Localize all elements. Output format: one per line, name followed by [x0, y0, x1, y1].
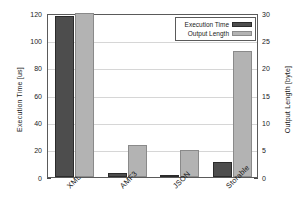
chart-legend: Execution TimeOutput Length: [175, 17, 256, 41]
y-axis-right-tick-label: 10: [262, 120, 288, 127]
legend-item: Output Length: [180, 29, 252, 38]
y-axis-right-tick-label: 30: [262, 11, 288, 18]
y-axis-right-tick-label: 20: [262, 65, 288, 72]
bar-chart-figure: Execution Time [us] Output Length [byte]…: [0, 0, 306, 219]
legend-label: Output Length: [188, 30, 229, 37]
bar-output-length: [233, 51, 252, 177]
y-axis-left-tick-label: 120: [16, 11, 42, 18]
legend-swatch-output-length: [232, 31, 252, 36]
y-axis-right-tick-label: 25: [262, 38, 288, 45]
y-axis-right-tick-label: 0: [262, 175, 288, 182]
bar-execution-time: [55, 16, 74, 177]
y-axis-left-tick-label: 60: [16, 93, 42, 100]
y-axis-left-tick-label: 40: [16, 120, 42, 127]
y-axis-left-tick-label: 0: [16, 175, 42, 182]
legend-label: Execution Time: [185, 21, 229, 28]
bar-execution-time: [213, 162, 232, 177]
y-axis-left-tick-label: 80: [16, 65, 42, 72]
legend-swatch-execution-time: [232, 22, 252, 27]
y-axis-right-tick-label: 15: [262, 93, 288, 100]
y-axis-left-tick-label: 20: [16, 147, 42, 154]
y-axis-left-tick-label: 100: [16, 38, 42, 45]
bar-output-length: [75, 13, 94, 177]
legend-item: Execution Time: [180, 20, 252, 29]
y-axis-right-tick-label: 5: [262, 147, 288, 154]
